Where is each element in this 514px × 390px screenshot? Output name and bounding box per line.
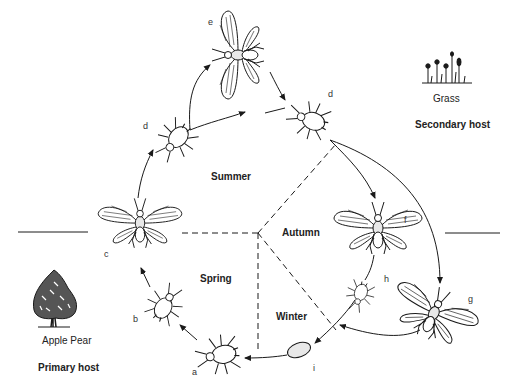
aphid-c	[98, 198, 182, 247]
secondary-host-plants: Grass	[433, 94, 460, 104]
season-autumn-label: Autumn	[282, 228, 320, 238]
stage-label-e: e	[208, 18, 213, 27]
stage-label-c: c	[104, 250, 109, 259]
season-spring-label: Spring	[200, 274, 232, 284]
stage-label-f: f	[404, 216, 407, 225]
stage-label-h: h	[384, 275, 389, 284]
aphid-h	[341, 278, 378, 316]
secondary-host-label: Secondary host	[415, 120, 490, 130]
stage-label-d-left: d	[143, 122, 148, 131]
primary-host-plants: Apple Pear	[42, 336, 91, 346]
stage-label-g: g	[468, 295, 473, 304]
aphid-life-cycle-diagram: Summer Autumn Spring Winter Apple Pear P…	[0, 0, 514, 390]
aphid-d-right	[282, 94, 333, 144]
season-dividers	[180, 144, 336, 350]
stage-label-i: i	[313, 364, 315, 373]
stage-label-b: b	[133, 315, 138, 324]
primary-host-label: Primary host	[38, 363, 99, 373]
season-winter-label: Winter	[276, 312, 307, 322]
aphid-e	[212, 11, 264, 99]
grass-icon	[422, 52, 472, 83]
aphid-d-left	[147, 114, 202, 170]
aphid-f	[334, 202, 422, 254]
aphid-a	[193, 332, 242, 379]
aphid-b	[141, 277, 192, 329]
tree-icon	[33, 270, 76, 327]
aphid-g	[383, 271, 485, 355]
egg-icon	[285, 339, 312, 360]
stage-label-d-right: d	[328, 90, 333, 99]
season-summer-label: Summer	[211, 172, 251, 182]
stage-label-a: a	[192, 368, 197, 377]
diagram-drawing	[0, 0, 514, 390]
